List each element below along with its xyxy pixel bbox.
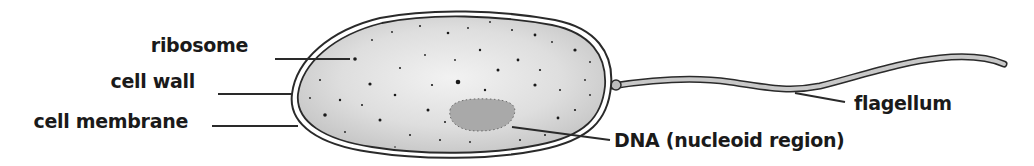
label-cell-membrane: cell membrane [33, 110, 188, 132]
label-flagellum: flagellum [854, 92, 952, 114]
flagellum [611, 57, 1004, 90]
basal-body [611, 80, 621, 90]
bacterial-cell-diagram: ribosome cell wall cell membrane DNA (nu… [0, 0, 1034, 166]
flagellum-leader-line [795, 93, 845, 102]
label-ribosome: ribosome [151, 34, 248, 56]
label-cell-wall: cell wall [111, 70, 196, 92]
label-dna-nucleoid: DNA (nucleoid region) [614, 129, 845, 151]
